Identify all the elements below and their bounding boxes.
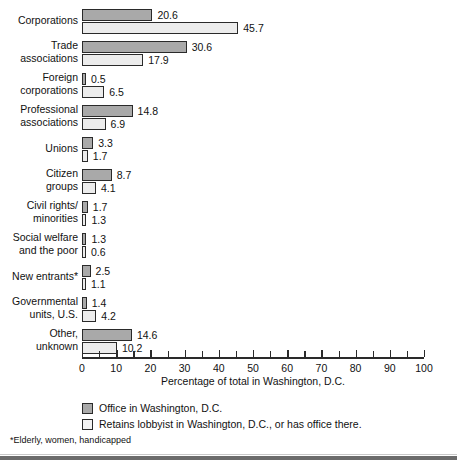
x-axis: 0102030405060708090100 [82, 357, 424, 358]
axis-tick-minor [133, 351, 134, 357]
bar-value-label: 17.9 [148, 54, 168, 67]
bar-value-label: 4.2 [101, 310, 116, 323]
axis-tick-label: 70 [316, 362, 328, 374]
bar-rect [82, 201, 88, 213]
axis-tick-label: 40 [213, 362, 225, 374]
category-label: Foreign corporations [0, 71, 78, 96]
bottom-rule [0, 456, 457, 460]
category-label: Corporations [0, 14, 78, 27]
chart-legend: Office in Washington, D.C.Retains lobbyi… [82, 401, 362, 433]
bar-value-label: 14.8 [138, 105, 158, 118]
axis-tick-label: 100 [415, 362, 433, 374]
axis-tick-minor [304, 351, 305, 357]
chart-row: Citizen groups8.74.1 [0, 168, 457, 200]
bar-value-label: 1.3 [91, 233, 106, 246]
bar-value-label: 1.7 [93, 201, 108, 214]
bar-value-label: 0.6 [91, 246, 106, 259]
chart-row: Professional associations14.86.9 [0, 104, 457, 136]
axis-tick-label: 0 [79, 362, 85, 374]
bar-value-label: 10.2 [122, 342, 142, 355]
legend-label: Office in Washington, D.C. [99, 402, 222, 414]
bar-value-label: 30.6 [192, 41, 212, 54]
bar-rect [82, 150, 88, 162]
axis-tick-major [356, 350, 357, 357]
chart-row: Foreign corporations0.56.5 [0, 72, 457, 104]
axis-tick-major [321, 350, 322, 357]
axis-tick-major [287, 350, 288, 357]
x-axis-title: Percentage of total in Washington, D.C. [82, 375, 424, 387]
axis-tick-label: 30 [179, 362, 191, 374]
bar-rect [82, 310, 96, 322]
bar-value-label: 8.7 [117, 169, 132, 182]
axis-tick-major [219, 350, 220, 357]
legend-item: Retains lobbyist in Washington, D.C., or… [82, 417, 362, 431]
category-label: Trade associations [0, 39, 78, 64]
bar-rect [82, 297, 87, 309]
axis-tick-minor [99, 351, 100, 357]
bar-value-label: 1.7 [93, 150, 108, 163]
chart-row: Unions3.31.7 [0, 136, 457, 168]
bottom-rule-highlight [0, 454, 457, 455]
footnote: *Elderly, women, handicapped [10, 435, 131, 445]
bar-value-label: 45.7 [243, 22, 263, 35]
bar-value-label: 14.6 [137, 329, 157, 342]
axis-tick-minor [236, 351, 237, 357]
axis-tick-label: 10 [110, 362, 122, 374]
axis-tick-minor [373, 351, 374, 357]
axis-tick-major [390, 350, 391, 357]
bar-rect [82, 214, 86, 226]
bar-rect [82, 246, 86, 258]
axis-tick-major [150, 350, 151, 357]
axis-tick-label: 60 [281, 362, 293, 374]
chart-row: Civil rights/ minorities1.71.3 [0, 200, 457, 232]
axis-tick-major [424, 350, 425, 357]
axis-tick-major [185, 350, 186, 357]
axis-tick-label: 80 [350, 362, 362, 374]
bar-rect [82, 105, 133, 117]
axis-tick-label: 90 [384, 362, 396, 374]
chart-row: Corporations20.645.7 [0, 8, 457, 40]
bar-rect [82, 182, 96, 194]
axis-line [82, 357, 424, 359]
bar-value-label: 3.3 [98, 137, 113, 150]
chart-row: Trade associations30.617.9 [0, 40, 457, 72]
category-label: Civil rights/ minorities [0, 199, 78, 224]
bar-rect [82, 278, 86, 290]
legend-swatch-dark [82, 403, 93, 414]
bar-value-label: 2.5 [96, 265, 111, 278]
bar-value-label: 0.5 [91, 73, 106, 86]
bar-rect [82, 73, 86, 85]
bar-rect [82, 41, 187, 53]
bar-chart: Corporations20.645.7Trade associations30… [0, 0, 457, 462]
chart-row: Other, unknown14.610.2 [0, 328, 457, 360]
bar-rect [82, 169, 112, 181]
bar-value-label: 1.1 [91, 278, 106, 291]
chart-row: New entrants*2.51.1 [0, 264, 457, 296]
category-label: Other, unknown [0, 327, 78, 352]
axis-tick-major [253, 350, 254, 357]
category-label: Governmental units, U.S. [0, 295, 78, 320]
axis-tick-major [116, 350, 117, 357]
bar-rect [82, 54, 143, 66]
bar-rect [82, 118, 106, 130]
axis-tick-major [82, 350, 83, 357]
chart-row: Social welfare and the poor1.30.6 [0, 232, 457, 264]
bar-value-label: 6.9 [111, 118, 126, 131]
legend-swatch-light [82, 419, 93, 430]
bar-rect [82, 329, 132, 341]
legend-label: Retains lobbyist in Washington, D.C., or… [99, 418, 362, 430]
bar-value-label: 4.1 [101, 182, 116, 195]
bar-rect [82, 137, 93, 149]
bar-rect [82, 86, 104, 98]
category-label: Citizen groups [0, 167, 78, 192]
bar-value-label: 20.6 [157, 9, 177, 22]
category-label: Social welfare and the poor [0, 231, 78, 256]
category-label: Unions [0, 142, 78, 155]
category-label: New entrants* [0, 270, 78, 283]
axis-tick-label: 20 [145, 362, 157, 374]
axis-tick-minor [407, 351, 408, 357]
axis-tick-minor [270, 351, 271, 357]
bar-rect [82, 233, 86, 245]
bar-rect [82, 22, 238, 34]
chart-rows: Corporations20.645.7Trade associations30… [0, 8, 457, 360]
